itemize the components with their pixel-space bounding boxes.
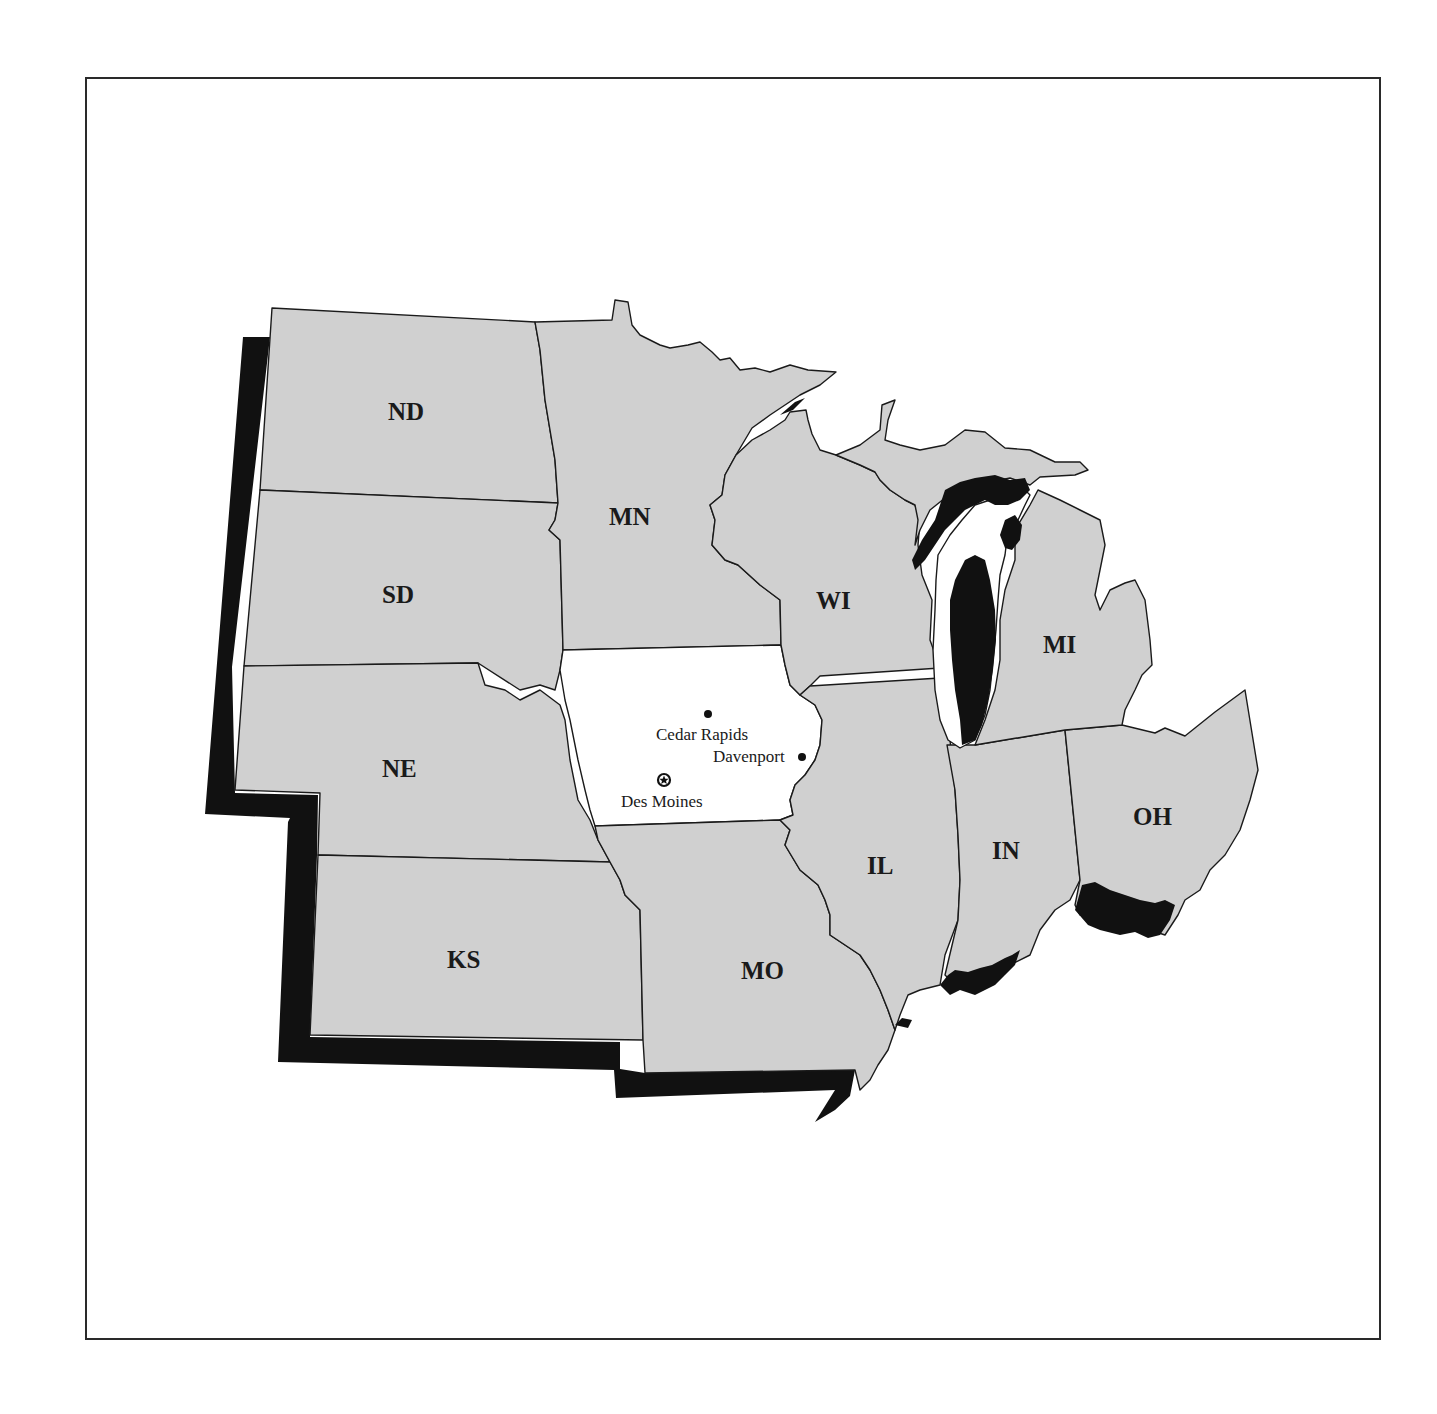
label-mi: MI	[1043, 631, 1076, 658]
label-ne: NE	[382, 755, 417, 782]
label-il: IL	[867, 852, 893, 879]
label-des-moines: Des Moines	[621, 792, 703, 811]
capital-star-icon	[658, 774, 670, 786]
cedar-rapids-dot-icon	[704, 710, 712, 718]
label-wi: WI	[816, 587, 851, 614]
label-davenport: Davenport	[713, 747, 785, 766]
label-oh: OH	[1133, 803, 1172, 830]
label-mn: MN	[609, 503, 651, 530]
label-cedar-rapids: Cedar Rapids	[656, 725, 748, 744]
label-ks: KS	[447, 946, 480, 973]
label-sd: SD	[382, 581, 414, 608]
label-nd: ND	[388, 398, 424, 425]
davenport-dot-icon	[798, 753, 806, 761]
label-in: IN	[992, 837, 1020, 864]
label-mo: MO	[741, 957, 784, 984]
midwest-map: ND SD NE KS MN MO WI IL MI IN OH Cedar R…	[0, 0, 1437, 1414]
